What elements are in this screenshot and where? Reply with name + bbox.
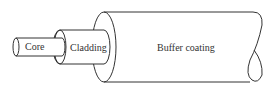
fiber-diagram: Core Cladding Buffer coating: [0, 0, 273, 91]
core-label: Core: [25, 41, 45, 52]
buffer-coating-label: Buffer coating: [157, 42, 215, 53]
cladding-label: Cladding: [70, 42, 107, 53]
